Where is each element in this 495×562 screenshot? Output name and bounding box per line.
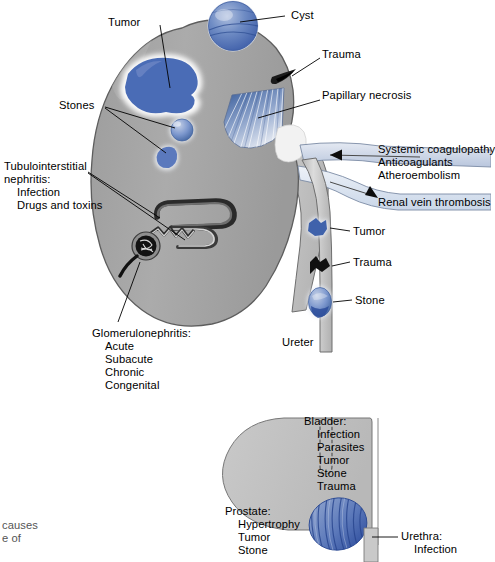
label-tin-item-0: Infection [17,186,60,199]
label-urethra-item-0: Infection [414,543,457,556]
label-prostate-item-2: Stone [238,544,268,557]
urethra-tube [364,528,378,562]
label-atheroembolism: Atheroembolism [378,169,460,182]
label-tumor-ureter: Tumor [353,225,385,238]
leader-tumor-ureter [330,228,350,231]
label-tin-line1: Tubulointerstitial [4,160,87,173]
label-tin-line2: nephritis: [4,173,50,186]
label-trauma-ureter: Trauma [353,256,392,269]
label-bladder-item-1: Parasites [317,441,365,454]
leader-trauma-ureter [332,262,350,266]
label-papillary-necrosis: Papillary necrosis [322,89,411,102]
label-bladder-item-3: Stone [317,467,347,480]
label-gn-item-3: Congenital [105,379,160,392]
caption-fragment-line1: causes [2,519,38,532]
label-tin-item-1: Drugs and toxins [17,199,103,212]
label-bladder-item-2: Tumor [317,454,349,467]
label-gn-item-0: Acute [105,340,134,353]
label-bladder-item-4: Trauma [317,480,356,493]
ureter-stone-lesion [307,286,333,318]
label-bladder-item-0: Infection [317,428,360,441]
leader-trauma-kidney [292,58,320,76]
kidney-cyst-lesion [208,1,259,52]
label-anticoagulants: Anticoagulants [378,156,453,169]
label-cyst: Cyst [291,9,314,22]
label-gn-head: Glomerulonephritis: [92,327,191,340]
label-prostate-item-1: Tumor [238,531,270,544]
leader-stone-ureter [333,300,352,302]
label-bladder-head: Bladder: [304,415,346,428]
renal-calyx [275,125,306,162]
label-renal-vein-thrombosis: Renal vein thrombosis [378,196,491,209]
label-trauma-kidney: Trauma [322,48,361,61]
label-ureter: Ureter [282,336,314,349]
label-prostate-item-0: Hypertrophy [238,518,300,531]
label-gn-item-2: Chronic [105,366,144,379]
caption-fragment-line2: e of [2,532,21,545]
label-gn-item-1: Subacute [105,353,153,366]
urethra-group [364,528,378,562]
label-stone-ureter: Stone [355,294,385,307]
label-stones: Stones [59,99,94,112]
label-systemic-coagulopathy: Systemic coagulopathy [378,143,495,156]
label-tumor-upper: Tumor [108,16,140,29]
label-urethra-head: Urethra: [401,530,442,543]
kidney-group [91,20,328,326]
label-prostate-head: Prostate: [225,505,271,518]
